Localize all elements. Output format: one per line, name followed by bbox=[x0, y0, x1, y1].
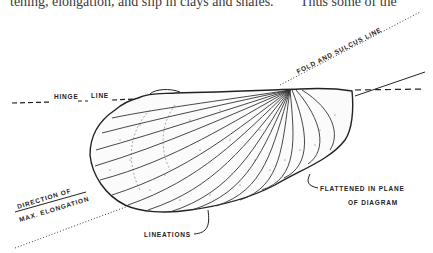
shell-drawing bbox=[90, 89, 353, 212]
label-flattened: FLATTENED IN PLANE bbox=[320, 185, 405, 192]
label-line: LINE bbox=[91, 92, 109, 99]
label-fold-sulcus: FOLD AND SULCUS LINE bbox=[295, 26, 382, 75]
lineations-leader bbox=[194, 210, 209, 234]
label-hinge: HINGE bbox=[54, 93, 79, 100]
label-of-diagram: OF DIAGRAM bbox=[348, 199, 398, 206]
label-lineations: LINEATIONS bbox=[144, 231, 191, 238]
flattened-leader bbox=[308, 174, 318, 188]
shell-deformation-figure: HINGE LINE FOLD AND SULCUS LINE DIRECTIO… bbox=[0, 0, 433, 253]
axis-line bbox=[355, 72, 425, 96]
